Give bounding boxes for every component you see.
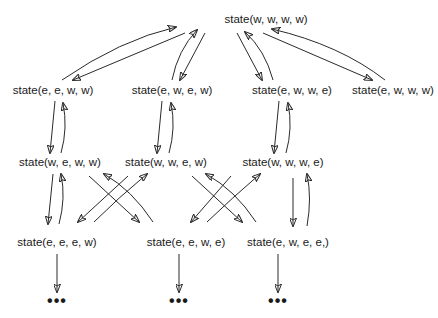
node-state-ewwe: state(e, w, w, e) — [252, 85, 332, 97]
edge-n1-to-n5 — [50, 101, 55, 153]
node-state-ewew: state(e, w, e, w) — [132, 85, 213, 97]
edge-n2-to-n6 — [157, 101, 162, 153]
edge-n0-to-n4 — [263, 33, 372, 80]
continuation-ellipsis-1: ••• — [47, 293, 67, 309]
edge-n10-to-n7 — [307, 174, 310, 226]
edge-n5-to-n1 — [61, 103, 65, 153]
edge-n10-to-n6 — [206, 174, 256, 222]
edge-n6-to-n8 — [78, 176, 128, 222]
edge-n7-to-n9 — [191, 176, 231, 222]
edge-n0-to-n1 — [73, 33, 185, 80]
edge-n1-to-n0 — [62, 27, 176, 80]
node-state-eeew: state(e, e, e, w) — [17, 237, 96, 249]
node-state-wwwe: state(w, w, w, e) — [242, 157, 323, 169]
node-state-eewe: state(e, e, w, e) — [147, 237, 226, 249]
edge-n8-to-n6 — [94, 174, 147, 222]
continuation-ellipsis-3: ••• — [268, 293, 288, 309]
node-state-eeww: state(e, e, w, w) — [13, 85, 94, 97]
edge-n0-to-n2 — [180, 33, 205, 80]
edge-n5-to-n8 — [48, 174, 53, 224]
edge-n4-to-n0 — [272, 29, 385, 80]
node-state-ewee: state(e, w, e, e,) — [247, 237, 329, 249]
node-state-ewww: state(e, w, w, w) — [352, 85, 434, 97]
edge-n0-to-n3 — [237, 33, 262, 80]
node-state-wwww: state(w, w, w, w) — [224, 14, 307, 26]
edge-n8-to-n5 — [59, 174, 63, 224]
edge-n3-to-n7 — [274, 101, 279, 153]
edge-n6-to-n2 — [169, 103, 173, 153]
edge-n7-to-n3 — [286, 103, 290, 153]
edge-n6-to-n10 — [192, 176, 242, 222]
node-state-weww: state(w, e, w, w) — [19, 157, 101, 169]
edge-n5-to-n9 — [89, 176, 139, 222]
node-state-wwew: state(w, w, e, w) — [125, 157, 207, 169]
state-diagram: state(w, w, w, w) state(e, e, w, w) stat… — [0, 0, 438, 318]
edge-n9-to-n5 — [104, 174, 153, 222]
continuation-ellipsis-2: ••• — [169, 293, 189, 309]
